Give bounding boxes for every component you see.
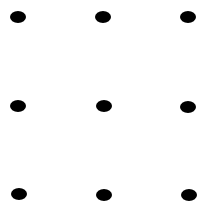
grid-dot-r3-c3 (181, 189, 197, 201)
grid-dot-r1-c3 (180, 11, 196, 23)
grid-dot-r2-c2 (96, 100, 112, 112)
grid-dot-r3-c2 (96, 189, 112, 201)
grid-dot-r2-c1 (10, 100, 26, 112)
grid-dot-r3-c1 (11, 188, 27, 200)
grid-dot-r1-c1 (10, 11, 26, 23)
grid-dot-r1-c2 (95, 11, 111, 23)
grid-dot-r2-c3 (180, 101, 196, 113)
